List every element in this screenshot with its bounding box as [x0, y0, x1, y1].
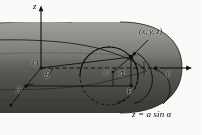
angle-label-alpha: α	[119, 69, 125, 78]
z-axis-label: z	[33, 2, 37, 11]
figure-drawing	[0, 0, 202, 135]
coordinate-triple-label: (x, y, z)	[139, 28, 162, 36]
equation-label: z = a sin α	[132, 110, 171, 119]
point-label-a: A	[16, 85, 22, 94]
point-label-o: O	[32, 59, 39, 68]
point-label-b: B	[127, 87, 133, 96]
y-axis-label: y	[166, 69, 170, 78]
angle-label-theta: θ	[45, 71, 50, 80]
point-label-c: C	[104, 68, 110, 77]
figure-container: z y O A B C θ α (x, y, z) z = a sin α	[0, 0, 202, 135]
